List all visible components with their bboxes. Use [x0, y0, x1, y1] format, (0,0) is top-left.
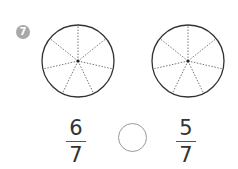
left-numerator: 6 — [64, 117, 88, 139]
right-fraction: 5 7 — [174, 117, 198, 166]
left-denominator: 7 — [64, 144, 88, 166]
right-numerator: 5 — [174, 117, 198, 139]
comparison-answer-circle[interactable] — [118, 123, 147, 152]
right-denominator: 7 — [174, 144, 198, 166]
left-pie — [42, 25, 114, 97]
fraction-bar — [176, 141, 196, 142]
right-pie — [152, 25, 224, 97]
fraction-bar — [66, 141, 86, 142]
left-fraction: 6 7 — [64, 117, 88, 166]
